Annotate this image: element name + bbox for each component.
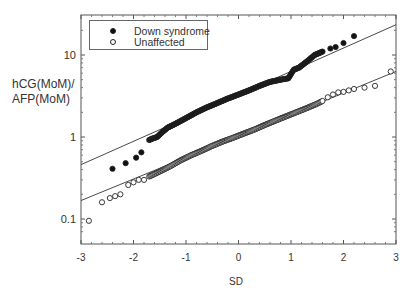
unaffected-point — [99, 200, 104, 205]
data-points — [86, 34, 393, 224]
y-axis-label-line-2: AFP(MoM) — [12, 92, 75, 107]
unaffected-point — [118, 192, 123, 197]
x-tick-label: 1 — [288, 252, 294, 263]
down-syndrome-point — [110, 166, 115, 171]
down-syndrome-point — [333, 44, 338, 49]
legend-label: Unaffected — [134, 37, 185, 48]
down-syndrome-point — [134, 155, 139, 160]
unaffected-point — [320, 98, 325, 103]
x-tick-label: 2 — [341, 252, 347, 263]
x-tick-label: 3 — [393, 252, 399, 263]
unaffected-point — [341, 89, 346, 94]
legend: Down syndrome Unaffected — [89, 20, 208, 50]
unaffected-point — [131, 180, 136, 185]
unaffected-point — [362, 85, 367, 90]
fit-lines — [81, 25, 396, 201]
filled-circle-marker-icon — [110, 28, 116, 34]
down-syndrome-point — [320, 49, 325, 54]
unaffected-point — [107, 195, 112, 200]
unaffected-point — [351, 86, 356, 91]
unaffected-point — [136, 177, 141, 182]
y-tick-label: 0.1 — [61, 213, 76, 225]
unaffected-point — [113, 194, 118, 199]
unaffected-point — [388, 69, 393, 74]
down-syndrome-point — [341, 40, 346, 45]
x-tick-label: -2 — [129, 252, 138, 263]
x-tick-label: 0 — [236, 252, 242, 263]
unaffected-point — [330, 92, 335, 97]
y-tick-label: 10 — [64, 49, 76, 61]
y-axis-label: hCG(MoM)/ AFP(MoM) — [12, 77, 75, 107]
x-tick-label: -3 — [77, 252, 86, 263]
down-syndrome-point — [123, 161, 128, 166]
unaffected-point — [372, 83, 377, 88]
y-axis-label-line-1: hCG(MoM)/ — [12, 77, 75, 92]
unaffected-point — [325, 95, 330, 100]
x-tick-label: -1 — [182, 252, 191, 263]
unaffected-point — [126, 182, 131, 187]
open-circle-marker-icon — [110, 39, 116, 45]
y-tick-label: 1 — [70, 131, 76, 143]
down-syndrome-point — [139, 150, 144, 155]
unaffected-point — [336, 90, 341, 95]
down-syndrome-point — [351, 34, 356, 39]
x-axis-label: SD — [229, 276, 243, 287]
y-axis: 0.1110 — [61, 30, 396, 231]
unaffected-point — [86, 218, 91, 223]
unaffected-point — [346, 88, 351, 93]
unaffected-point — [141, 177, 146, 182]
down-syndrome-point — [328, 46, 333, 51]
